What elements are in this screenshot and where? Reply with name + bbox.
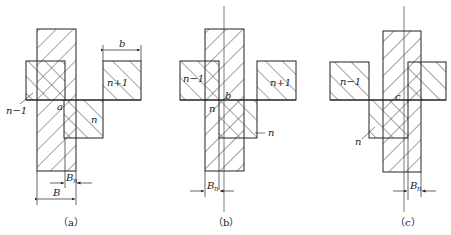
caption-b: （b）: [213, 217, 239, 228]
block-n: [369, 100, 408, 138]
label-n: n: [91, 114, 97, 125]
label-b: b: [119, 38, 125, 49]
block-n-plus-1: [408, 62, 446, 100]
svg-text:n: n: [417, 185, 422, 193]
label-n: n: [355, 136, 361, 147]
label-point-c: c: [395, 91, 401, 102]
label-point-a: a: [57, 101, 63, 112]
label-point-b: b: [225, 90, 231, 101]
label-n-plus-1: n+1: [107, 77, 128, 88]
caption-a: （a）: [58, 217, 84, 228]
label-n-minus-1: n−1: [183, 73, 204, 84]
panel-b: n−1 n+1 b n n B n （b）: [180, 6, 296, 228]
label-n-minus-1: n−1: [340, 76, 361, 87]
svg-text:n: n: [214, 185, 219, 193]
label-n-inner: n: [209, 103, 215, 114]
svg-text:n: n: [73, 177, 78, 185]
label-B: B: [52, 187, 60, 198]
panel-a: b n+1 n−1 a n B n B （a）: [6, 29, 141, 228]
block-n: [219, 100, 257, 138]
label-n-minus-1: n−1: [6, 105, 27, 116]
weld-overlap-diagram: b n+1 n−1 a n B n B （a） n−1 n+1 b n n: [0, 0, 451, 235]
caption-c: （c）: [395, 217, 421, 228]
label-n-plus-1: n+1: [270, 77, 291, 88]
label-n-pointer: n: [268, 127, 274, 138]
panel-c: n−1 c n B n （c）: [330, 6, 446, 228]
